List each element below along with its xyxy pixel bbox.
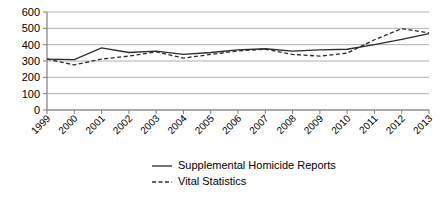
chart-canvas: 0100200300400500600 19992000200120022003…: [0, 0, 448, 204]
x-tick-label: 2011: [357, 112, 380, 135]
x-tick-label: 2009: [302, 112, 326, 136]
y-tick-label: 600: [22, 6, 40, 18]
legend-label-supplemental-homicide-reports: Supplemental Homicide Reports: [178, 159, 336, 171]
x-tick-label: 2006: [220, 112, 244, 136]
x-tick-label: 2003: [138, 112, 162, 136]
line-chart: 0100200300400500600 19992000200120022003…: [0, 0, 448, 204]
y-tick-label: 100: [22, 88, 40, 100]
y-tick-label: 400: [22, 39, 40, 51]
x-tick-label: 2005: [193, 112, 217, 136]
x-tick-label: 2008: [274, 112, 298, 136]
x-tick-label: 2001: [83, 112, 107, 136]
data-series: [47, 29, 429, 65]
y-tick-label: 300: [22, 55, 40, 67]
legend-label-vital-statistics: Vital Statistics: [178, 175, 247, 187]
x-tick-label: 2007: [247, 112, 271, 136]
series-line-supplemental-homicide-reports: [47, 34, 429, 60]
x-tick-label: 2004: [165, 112, 189, 136]
x-tick-labels: 1999200020012002200320042005200620072008…: [29, 112, 435, 136]
y-tick-label: 500: [22, 22, 40, 34]
x-tick-label: 2010: [329, 112, 353, 136]
x-tick-label: 2002: [111, 112, 135, 136]
y-tick-label: 0: [34, 104, 40, 116]
gridlines: [43, 12, 429, 110]
y-tick-label: 200: [22, 71, 40, 83]
x-tick-label: 2013: [411, 112, 435, 136]
series-line-vital-statistics: [47, 29, 429, 65]
x-tick-label: 1999: [29, 112, 53, 136]
legend: Supplemental Homicide Reports Vital Stat…: [152, 159, 336, 187]
x-tick-label: 2000: [56, 112, 80, 136]
x-tick-label: 2012: [384, 112, 408, 136]
y-tick-labels: 0100200300400500600: [22, 6, 40, 116]
